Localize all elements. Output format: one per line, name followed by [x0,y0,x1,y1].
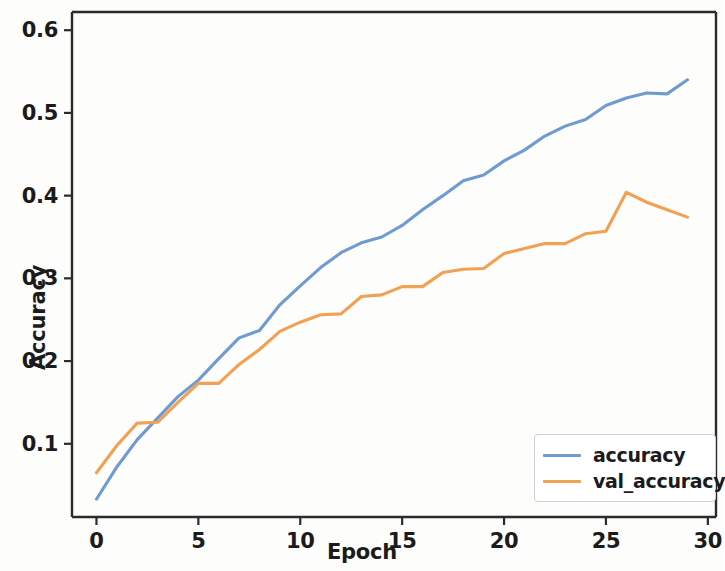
y-tick-label: 0.3 [0,266,58,290]
series-line-val-accuracy [96,192,687,472]
y-tick-label: 0.1 [0,432,58,456]
y-tick-label: 0.5 [0,101,58,125]
y-tick-label: 0.4 [0,184,58,208]
x-tick-label: 10 [286,529,315,553]
legend-swatch-accuracy [543,454,581,457]
chart-legend: accuracy val_accuracy [534,434,716,502]
x-tick-label: 20 [490,529,519,553]
y-tick-label: 0.6 [0,18,58,42]
legend-label-accuracy: accuracy [593,444,685,466]
x-tick-label: 0 [89,529,103,553]
x-tick-label: 5 [191,529,205,553]
x-tick-label: 25 [592,529,621,553]
legend-item-val-accuracy: val_accuracy [543,468,705,494]
x-tick-label: 15 [388,529,417,553]
legend-swatch-val-accuracy [543,480,581,483]
x-tick-label: 30 [694,529,723,553]
legend-label-val-accuracy: val_accuracy [593,470,725,492]
y-tick-label: 0.2 [0,349,58,373]
legend-item-accuracy: accuracy [543,442,705,468]
